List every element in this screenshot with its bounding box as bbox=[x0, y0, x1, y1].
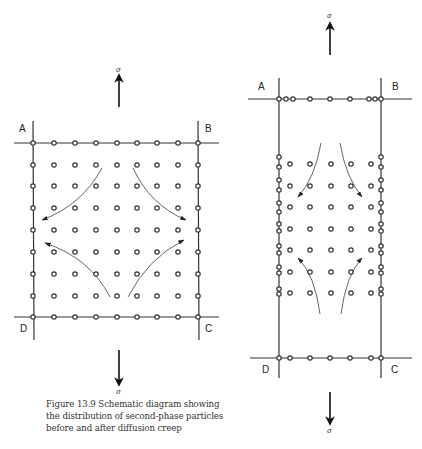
particle bbox=[284, 97, 288, 101]
particle bbox=[308, 291, 312, 295]
particle bbox=[73, 228, 77, 232]
particle bbox=[135, 272, 139, 276]
particle bbox=[73, 294, 77, 298]
particle bbox=[115, 184, 119, 188]
particle bbox=[349, 270, 353, 274]
particle bbox=[52, 206, 56, 210]
particle bbox=[135, 228, 139, 232]
particle bbox=[52, 294, 56, 298]
particle bbox=[277, 229, 281, 233]
particle bbox=[277, 201, 281, 205]
particle bbox=[277, 188, 281, 192]
particle bbox=[135, 206, 139, 210]
particle bbox=[288, 248, 292, 252]
particle bbox=[73, 184, 77, 188]
particle bbox=[379, 251, 383, 255]
particle bbox=[308, 162, 312, 166]
particle bbox=[277, 244, 281, 248]
particle bbox=[31, 206, 35, 210]
particle bbox=[329, 248, 333, 252]
particle bbox=[155, 250, 159, 254]
particle bbox=[155, 163, 159, 167]
particle bbox=[277, 265, 281, 269]
particle bbox=[115, 315, 119, 319]
particle bbox=[196, 163, 200, 167]
particle bbox=[379, 188, 383, 192]
particle bbox=[288, 184, 292, 188]
particle bbox=[277, 210, 281, 214]
particle bbox=[135, 294, 139, 298]
particle bbox=[369, 356, 373, 360]
particle bbox=[115, 163, 119, 167]
particle bbox=[288, 227, 292, 231]
particle bbox=[288, 270, 292, 274]
particle bbox=[155, 272, 159, 276]
corner-label-a: A bbox=[258, 81, 265, 92]
stress-label-bottom-left: σ bbox=[116, 388, 121, 396]
particle bbox=[367, 97, 371, 101]
particle bbox=[277, 155, 281, 159]
corner-label-a: A bbox=[19, 123, 26, 134]
particle bbox=[115, 228, 119, 232]
particle bbox=[291, 97, 295, 101]
particle bbox=[52, 272, 56, 276]
particle bbox=[349, 184, 353, 188]
particle bbox=[94, 315, 98, 319]
before-creep-grain bbox=[14, 78, 219, 382]
particle bbox=[277, 356, 281, 360]
particle bbox=[379, 292, 383, 296]
corner-label-b: B bbox=[205, 123, 212, 134]
particle bbox=[155, 141, 159, 145]
particle bbox=[329, 270, 333, 274]
particle bbox=[94, 184, 98, 188]
particle bbox=[115, 206, 119, 210]
particle bbox=[196, 315, 200, 319]
particle bbox=[379, 222, 383, 226]
particle bbox=[379, 265, 383, 269]
corner-label-d: D bbox=[20, 323, 27, 334]
particle bbox=[308, 97, 312, 101]
particle bbox=[308, 248, 312, 252]
particle bbox=[369, 205, 373, 209]
diffusion-creep-diagram bbox=[0, 0, 422, 449]
particle bbox=[349, 227, 353, 231]
particle bbox=[196, 206, 200, 210]
particle bbox=[277, 292, 281, 296]
caption-line: the distribution of second-phase particl… bbox=[46, 410, 246, 422]
particle bbox=[94, 294, 98, 298]
stress-label-bottom-right: σ bbox=[327, 427, 332, 435]
figure-caption: Figure 13.9 Schematic diagram showing th… bbox=[46, 398, 246, 434]
particle bbox=[94, 141, 98, 145]
particle bbox=[135, 315, 139, 319]
particle bbox=[73, 206, 77, 210]
particle bbox=[196, 184, 200, 188]
particle bbox=[176, 250, 180, 254]
corner-label-c: C bbox=[205, 323, 212, 334]
particle bbox=[379, 97, 383, 101]
particle bbox=[135, 141, 139, 145]
particle bbox=[349, 248, 353, 252]
particle bbox=[155, 206, 159, 210]
particle bbox=[196, 141, 200, 145]
particle bbox=[155, 184, 159, 188]
particle bbox=[73, 250, 77, 254]
particle bbox=[379, 271, 383, 275]
particle bbox=[52, 141, 56, 145]
particle bbox=[329, 184, 333, 188]
particle bbox=[379, 244, 383, 248]
particle bbox=[348, 97, 352, 101]
particle bbox=[94, 250, 98, 254]
particle bbox=[52, 163, 56, 167]
particle bbox=[308, 356, 312, 360]
particle bbox=[31, 228, 35, 232]
particle bbox=[349, 162, 353, 166]
particle bbox=[277, 165, 281, 169]
particle bbox=[52, 315, 56, 319]
particle bbox=[328, 97, 332, 101]
particle bbox=[115, 250, 119, 254]
particle bbox=[288, 291, 292, 295]
stress-label-top-left: σ bbox=[116, 66, 121, 74]
particle bbox=[115, 294, 119, 298]
particle bbox=[115, 141, 119, 145]
particle bbox=[176, 315, 180, 319]
